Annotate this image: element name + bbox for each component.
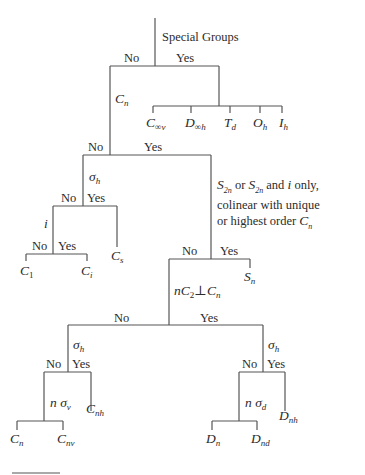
result-ci: Ci [81, 264, 93, 282]
i-question: i [44, 217, 48, 231]
left-sigma-h-no-label: No [46, 357, 61, 371]
sigma-h-question-low: σh [89, 170, 100, 188]
s2n-no-label: No [182, 244, 197, 258]
result-ih: Ih [279, 116, 288, 134]
result-dnd: Dnd [251, 432, 270, 450]
result-cnv: Cnv [57, 432, 75, 450]
cn-question: Cn [115, 92, 129, 110]
result-c1: C1 [20, 264, 34, 282]
cn-yes-label: Yes [144, 140, 162, 154]
nc2-yes-label: Yes [200, 311, 218, 325]
result-cnh: Cnh [86, 402, 104, 420]
result-oh: Oh [253, 116, 267, 134]
i-no-label: No [32, 239, 47, 253]
cn-no-label: No [88, 140, 103, 154]
sigma-h-low-yes-label: Yes [87, 191, 105, 205]
root-no-label: No [124, 51, 139, 65]
result-d-inf-h: D∞h [185, 116, 206, 134]
sigma-h-question-left: σh [73, 338, 84, 356]
root-yes-label: Yes [176, 51, 194, 65]
right-sigma-h-no-label: No [242, 357, 257, 371]
s2n-yes-label: Yes [220, 244, 238, 258]
root-question: Special Groups [162, 30, 239, 44]
result-sn: Sn [244, 270, 255, 288]
result-dnh: Dnh [279, 409, 298, 427]
sigma-h-question-right: σh [268, 338, 279, 356]
right-sigma-h-yes-label: Yes [267, 357, 285, 371]
result-td: Td [224, 116, 236, 134]
s2n-question: S2n or S2n and i only,colinear with uniq… [217, 177, 320, 233]
sigma-h-low-no-label: No [61, 191, 76, 205]
i-yes-label: Yes [58, 239, 76, 253]
result-cs: Cs [111, 249, 124, 267]
result-dn: Dn [206, 432, 220, 450]
n-sigma-v-question: n σv [50, 396, 71, 414]
n-sigma-d-question: n σd [245, 396, 266, 414]
result-c-inf-v: C∞v [146, 116, 165, 134]
nc2-no-label: No [114, 311, 129, 325]
nc2-perp-cn-question: nC2⊥Cn [174, 284, 220, 302]
left-sigma-h-yes-label: Yes [72, 357, 90, 371]
result-cn: Cn [10, 432, 24, 450]
